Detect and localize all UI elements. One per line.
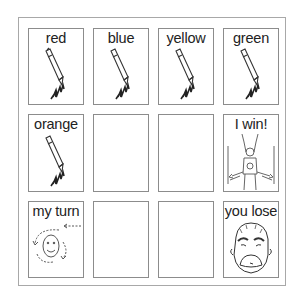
sad-face-icon — [226, 219, 276, 277]
card-orange[interactable]: orange — [28, 114, 84, 192]
card-label: I win! — [224, 116, 278, 132]
card-empty[interactable] — [158, 114, 214, 192]
turn-arrows-face-icon — [29, 220, 83, 276]
card-my-turn[interactable]: my turn — [28, 201, 84, 278]
card-label: blue — [94, 30, 148, 46]
crayon-icon — [106, 47, 136, 103]
card-blue[interactable]: blue — [93, 28, 149, 105]
communication-board: red blue yellow — [18, 17, 286, 286]
crayon-icon — [236, 47, 266, 103]
card-empty[interactable] — [158, 201, 214, 278]
card-label: orange — [29, 116, 83, 132]
card-label: yellow — [159, 30, 213, 46]
card-green[interactable]: green — [223, 28, 279, 105]
card-yellow[interactable]: yellow — [158, 28, 214, 105]
card-i-win[interactable]: I win! — [223, 114, 279, 192]
crayon-icon — [41, 134, 71, 190]
card-empty[interactable] — [93, 201, 149, 278]
card-label: my turn — [29, 203, 83, 219]
card-you-lose[interactable]: you lose — [223, 201, 279, 278]
card-label: red — [29, 30, 83, 46]
crayon-icon — [171, 47, 201, 103]
winner-person-icon — [224, 132, 278, 192]
card-red[interactable]: red — [28, 28, 84, 105]
crayon-icon — [41, 47, 71, 103]
card-empty[interactable] — [93, 114, 149, 192]
card-label: you lose — [224, 203, 278, 219]
card-label: green — [224, 30, 278, 46]
